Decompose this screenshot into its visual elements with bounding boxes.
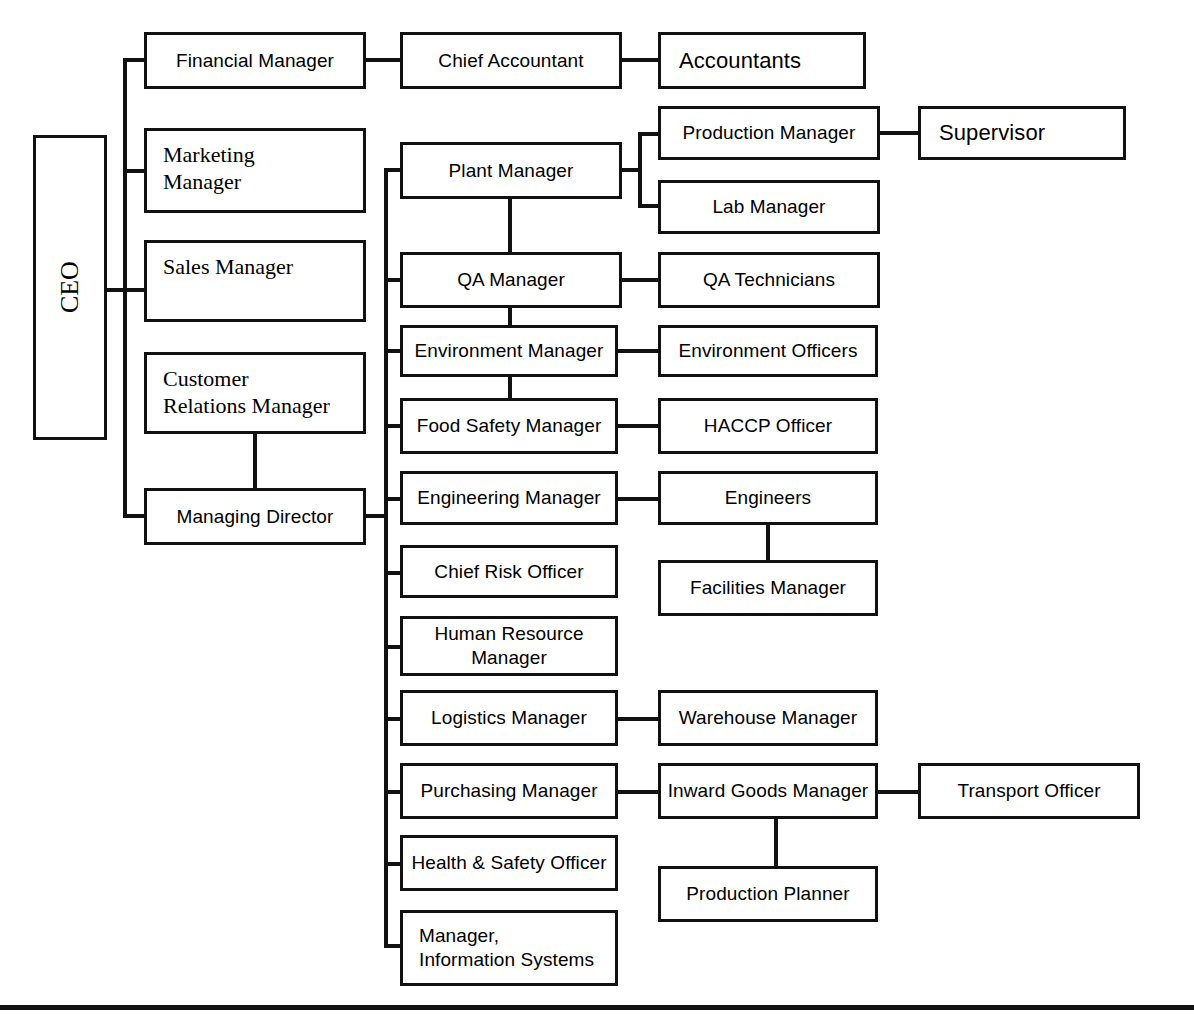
connector-environment-manager-to-environment-officers [616,349,660,353]
connector-logistics-manager-to-warehouse-manager [616,717,660,721]
connector-food-safety-manager-to-haccp-officer [616,424,660,428]
node-purchasing-manager-label: Purchasing Manager [403,779,615,803]
connector-chief-accountant-to-accountants [620,58,660,62]
node-marketing-manager[interactable]: Marketing Manager [144,128,366,213]
node-lab-manager[interactable]: Lab Manager [658,180,880,234]
node-facilities-manager-label: Facilities Manager [661,576,875,600]
node-qa-technicians-label: QA Technicians [661,268,877,292]
node-health-safety-officer[interactable]: Health & Safety Officer [400,835,618,891]
node-food-safety-manager[interactable]: Food Safety Manager [400,398,618,454]
connector-sub-trunk-to-lab-manager [638,204,660,208]
node-qa-manager[interactable]: QA Manager [400,252,622,308]
node-warehouse-manager-label: Warehouse Manager [661,706,875,730]
connector-inward-goods-to-production-planner [774,817,778,869]
connector-trunk-to-sales [123,288,146,292]
node-environment-manager[interactable]: Environment Manager [400,325,618,377]
node-lab-manager-label: Lab Manager [661,195,877,219]
node-ceo[interactable]: CEO [33,135,107,440]
node-transport-officer-label: Transport Officer [921,779,1137,803]
connector-engineering-manager-to-engineers [616,497,660,501]
node-sales-manager[interactable]: Sales Manager [144,240,366,322]
node-haccp-officer[interactable]: HACCP Officer [658,398,878,454]
node-health-safety-officer-label: Health & Safety Officer [403,851,615,875]
node-inward-goods-manager[interactable]: Inward Goods Manager [658,763,878,819]
node-qa-technicians[interactable]: QA Technicians [658,252,880,308]
node-inward-goods-manager-label: Inward Goods Manager [661,779,875,803]
node-logistics-manager[interactable]: Logistics Manager [400,690,618,746]
node-engineering-manager[interactable]: Engineering Manager [400,471,618,525]
org-chart-canvas: CEO Financial Manager Chief Accountant A… [0,0,1194,1025]
node-chief-risk-officer[interactable]: Chief Risk Officer [400,545,618,598]
node-facilities-manager[interactable]: Facilities Manager [658,560,878,616]
node-marketing-manager-label: Marketing Manager [163,141,363,196]
node-environment-officers[interactable]: Environment Officers [658,325,878,377]
node-engineers[interactable]: Engineers [658,471,878,525]
node-human-resource-manager-label: Human Resource Manager [403,622,615,669]
node-manager-information-systems-label: Manager, Information Systems [419,924,615,971]
node-accountants-label: Accountants [679,47,863,74]
node-engineering-manager-label: Engineering Manager [403,486,615,510]
node-financial-manager-label: Financial Manager [147,49,363,73]
page-bottom-rule [0,1005,1194,1010]
node-financial-manager[interactable]: Financial Manager [144,32,366,89]
connector-production-manager-to-supervisor [878,131,920,135]
connector-engineers-to-facilities-manager [766,523,770,563]
node-plant-manager-label: Plant Manager [403,159,619,183]
connector-trunk-to-managing-director [123,514,146,518]
node-production-planner[interactable]: Production Planner [658,866,878,922]
node-chief-accountant[interactable]: Chief Accountant [400,32,622,89]
node-warehouse-manager[interactable]: Warehouse Manager [658,690,878,746]
node-qa-manager-label: QA Manager [403,268,619,292]
connector-purchasing-manager-to-inward-goods-manager [616,790,660,794]
node-production-planner-label: Production Planner [661,882,875,906]
node-ceo-label: CEO [54,261,86,313]
connector-environment-manager-to-food-safety-manager [508,375,512,400]
node-purchasing-manager[interactable]: Purchasing Manager [400,763,618,819]
node-haccp-officer-label: HACCP Officer [661,414,875,438]
node-accountants[interactable]: Accountants [658,32,866,89]
node-supervisor[interactable]: Supervisor [918,106,1126,160]
node-supervisor-label: Supervisor [939,119,1123,146]
connector-trunk-to-marketing [123,169,146,173]
node-manager-information-systems[interactable]: Manager, Information Systems [400,910,618,986]
connector-qa-manager-to-qa-technicians [620,278,660,282]
node-production-manager-label: Production Manager [661,121,877,145]
node-logistics-manager-label: Logistics Manager [403,706,615,730]
node-sales-manager-label: Sales Manager [163,253,363,280]
connector-mid-trunk [384,168,388,948]
node-managing-director-label: Managing Director [147,505,363,529]
connector-qa-manager-to-environment-manager [508,306,512,327]
node-environment-manager-label: Environment Manager [403,339,615,363]
connector-plant-manager-to-qa-manager [508,197,512,254]
node-chief-risk-officer-label: Chief Risk Officer [403,560,615,584]
connector-inward-goods-to-transport-officer [876,790,920,794]
node-engineers-label: Engineers [661,486,875,510]
connector-plant-sub-trunk [638,132,642,208]
node-customer-relations-manager-label: Customer Relations Manager [163,365,363,420]
node-plant-manager[interactable]: Plant Manager [400,142,622,199]
node-production-manager[interactable]: Production Manager [658,106,880,160]
node-managing-director[interactable]: Managing Director [144,488,366,545]
node-environment-officers-label: Environment Officers [661,339,875,363]
node-food-safety-manager-label: Food Safety Manager [403,414,615,438]
connector-customer-relations-to-managing-director [253,432,257,490]
node-customer-relations-manager[interactable]: Customer Relations Manager [144,352,366,434]
node-transport-officer[interactable]: Transport Officer [918,763,1140,819]
connector-financial-to-chief-accountant [364,58,402,62]
node-human-resource-manager[interactable]: Human Resource Manager [400,616,618,676]
connector-sub-trunk-to-production-manager [638,132,660,136]
connector-trunk-to-financial [123,58,146,62]
node-chief-accountant-label: Chief Accountant [403,49,619,73]
